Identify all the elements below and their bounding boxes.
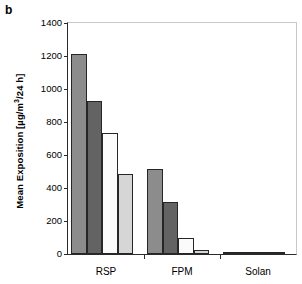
x-axis-tick [220, 254, 221, 259]
x-axis-category-label-rsp: RSP [96, 267, 117, 277]
bar-rsp-series-4 [118, 174, 134, 254]
y-axis-tick [64, 89, 68, 90]
bar-fpm-series-1 [147, 169, 163, 254]
x-axis-category-label-solan: Solan [245, 267, 271, 277]
bar-fpm-series-3 [178, 238, 194, 254]
y-axis-tick-label: 1000 [41, 84, 62, 94]
y-axis-tick-label: 1200 [41, 51, 62, 61]
y-axis-tick-label: 600 [46, 150, 62, 160]
y-axis-tick-label: 0 [57, 249, 62, 259]
y-axis-tick [64, 254, 68, 255]
bar-solan-series-1 [223, 252, 239, 254]
bar-rsp-series-1 [71, 54, 87, 254]
bar-fpm-series-2 [163, 202, 179, 254]
x-axis-tick [144, 254, 145, 259]
y-axis-tick [64, 122, 68, 123]
y-axis-tick [64, 23, 68, 24]
y-axis-tick [64, 221, 68, 222]
panel-letter: b [5, 4, 12, 16]
bar-rsp-series-3 [102, 133, 118, 254]
bar-fpm-series-4 [194, 250, 210, 254]
bar-solan-series-4 [270, 252, 286, 254]
y-axis-tick [64, 155, 68, 156]
plot-area: 0200400600800100012001400RSPFPMSolan [67, 22, 297, 255]
bar-rsp-series-2 [87, 101, 103, 254]
bar-solan-series-2 [239, 252, 255, 254]
bar-solan-series-3 [254, 252, 270, 254]
y-axis-tick [64, 188, 68, 189]
x-axis-category-label-fpm: FPM [171, 267, 192, 277]
y-axis-tick-label: 800 [46, 117, 62, 127]
y-axis-tick-label: 200 [46, 216, 62, 226]
y-axis-tick-label: 400 [46, 183, 62, 193]
y-axis-tick-label: 1400 [41, 18, 62, 28]
y-axis-title: Mean Exposition [µg/m3/24 h] [13, 36, 25, 246]
y-axis-tick [64, 56, 68, 57]
